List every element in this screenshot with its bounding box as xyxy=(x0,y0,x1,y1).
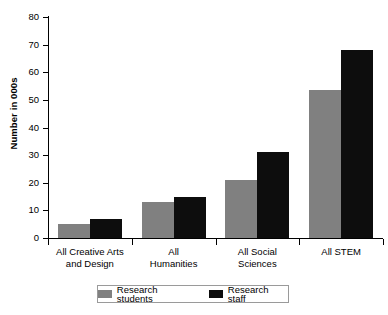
legend-label-staff: Research staff xyxy=(228,285,288,304)
y-axis-tick xyxy=(43,17,49,18)
bar-group xyxy=(142,17,206,238)
y-axis-tick xyxy=(43,155,49,156)
x-axis-category-label: All SocialSciences xyxy=(216,246,300,269)
legend-swatch-icon-staff xyxy=(209,290,223,298)
category-label-line: All xyxy=(132,246,216,258)
y-axis-tick xyxy=(43,100,49,101)
bar-students xyxy=(309,90,341,238)
bar-staff xyxy=(341,50,373,238)
y-axis-tick-label: 30 xyxy=(0,150,39,160)
y-axis-tick xyxy=(43,72,49,73)
bar-group xyxy=(225,17,289,238)
category-label-line: and Design xyxy=(48,258,132,270)
bar-chart: Number in 000s 01020304050607080 All Cre… xyxy=(0,0,388,315)
category-label-line: All Social xyxy=(216,246,300,258)
y-axis-tick xyxy=(43,210,49,211)
y-axis-tick-label: 60 xyxy=(0,68,39,78)
y-axis-tick xyxy=(43,45,49,46)
legend-label-students: Research students xyxy=(117,285,195,304)
y-axis-tick-label: 10 xyxy=(0,206,39,216)
legend-item-research-staff: Research staff xyxy=(209,285,288,304)
x-axis-tick xyxy=(132,239,133,245)
y-axis-tick-label: 70 xyxy=(0,40,39,50)
chart-legend: Research students Research staff xyxy=(97,285,289,303)
x-axis-category-label: All Creative Artsand Design xyxy=(48,246,132,269)
y-axis-tick-label: 20 xyxy=(0,178,39,188)
bar-staff xyxy=(257,152,289,238)
legend-item-research-students: Research students xyxy=(98,285,195,304)
y-axis-tick-label: 40 xyxy=(0,123,39,133)
category-label-line: Humanities xyxy=(132,258,216,270)
y-axis-tick-label: 80 xyxy=(0,12,39,22)
bar-students xyxy=(225,180,257,238)
bar-staff xyxy=(174,197,206,238)
bar-students xyxy=(142,202,174,238)
x-axis-tick xyxy=(299,239,300,245)
x-axis-tick xyxy=(216,239,217,245)
bar-group xyxy=(309,17,373,238)
x-axis-category-label: AllHumanities xyxy=(132,246,216,269)
category-label-line: Sciences xyxy=(216,258,300,270)
category-label-line: All Creative Arts xyxy=(48,246,132,258)
category-label-line: All STEM xyxy=(299,246,383,258)
y-axis-tick xyxy=(43,128,49,129)
x-axis-tick xyxy=(383,239,384,245)
legend-swatch-icon-students xyxy=(98,290,112,298)
y-axis-tick xyxy=(43,183,49,184)
x-axis-tick xyxy=(48,239,49,245)
x-axis-category-label: All STEM xyxy=(299,246,383,258)
bar-students xyxy=(58,224,90,238)
bar-staff xyxy=(90,219,122,238)
y-axis-tick-label: 50 xyxy=(0,95,39,105)
bar-group xyxy=(58,17,122,238)
y-axis-tick-label: 0 xyxy=(0,233,39,243)
